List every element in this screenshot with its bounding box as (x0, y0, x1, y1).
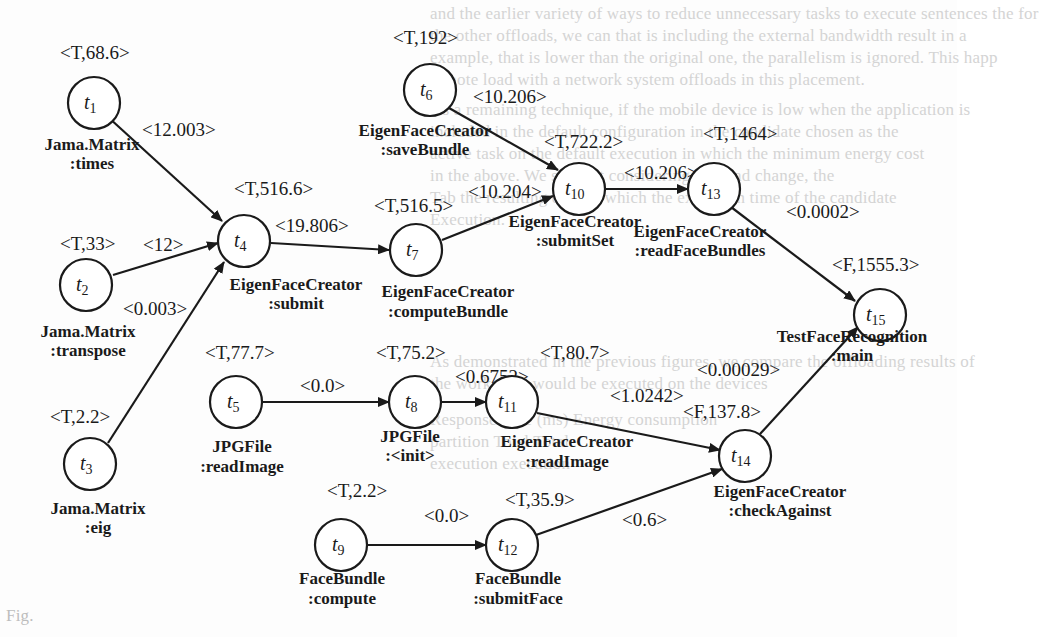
node-attr: <T,192> (393, 27, 458, 48)
node-attr: <F,137.8> (683, 401, 761, 422)
node-method: :submitFace (473, 589, 563, 608)
node-class: EigenFaceCreator (230, 275, 363, 294)
node-attr: <T,722.2> (544, 131, 623, 152)
node-attr: <T,516.6> (234, 178, 313, 199)
edge-weight-t5-t8: <0.0> (300, 375, 345, 396)
node-attr: <T,75.2> (376, 342, 446, 363)
edge-t4-t7 (271, 243, 389, 250)
node-class: JPGFile (212, 437, 272, 456)
node-t6: <T,192> t6 EigenFaceCreator :saveBundle (359, 27, 492, 159)
edge-weight-t2-t4: <12> (143, 234, 183, 255)
node-t4: <T,516.6> t4 EigenFaceCreator :submit (218, 178, 363, 313)
node-class: Jama.Matrix (41, 322, 136, 341)
node-class: JPGFile (380, 427, 440, 446)
node-t2: <T,33> t2 Jama.Matrix :transpose (41, 233, 136, 360)
edge-weight-t11-t14: <1.0242> (610, 385, 684, 406)
node-method: :saveBundle (381, 140, 470, 159)
edge-weight-t9-t12: <0.0> (424, 505, 469, 526)
node-t11: <T,80.7> t11 EigenFaceCreator :readImage (486, 342, 634, 471)
node-method: :<init> (385, 446, 435, 465)
node-method: :checkAgainst (729, 501, 832, 520)
node-t1: <T,68.6> t1 Jama.Matrix :times (45, 42, 140, 173)
node-t3: <T,2.2> t3 Jama.Matrix :eig (50, 406, 146, 537)
node-method: :readImage (525, 452, 609, 471)
edge-weight-t4-t7: <19.806> (275, 215, 349, 236)
node-t8: <T,75.2> t8 JPGFile :<init> (376, 342, 446, 465)
node-class: EigenFaceCreator (501, 432, 634, 451)
node-attr: <T,33> (60, 233, 115, 254)
edge-weight-t13-t15: <0.0002> (786, 201, 860, 222)
node-method: :readImage (200, 457, 284, 476)
node-attr: <F,1555.3> (832, 254, 919, 275)
node-class: Jama.Matrix (51, 499, 146, 518)
node-class: FaceBundle (299, 569, 385, 588)
node-class: EigenFaceCreator (634, 222, 767, 241)
node-method: :readFaceBundles (635, 241, 766, 260)
node-method: :transpose (50, 341, 126, 360)
node-class: EigenFaceCreator (509, 212, 642, 231)
node-attr: <T,35.9> (505, 489, 575, 510)
node-t15: <F,1555.3> t15 TestFaceRecognition :main (777, 254, 928, 365)
node-class: EigenFaceCreator (359, 121, 492, 140)
node-class: TestFaceRecognition (777, 327, 928, 346)
node-method: :eig (85, 518, 112, 537)
edge-weight-t12-t14: <0.6> (622, 509, 667, 530)
edge-weight-t3-t4: <0.003> (123, 298, 187, 319)
node-attr: <T,77.7> (205, 342, 275, 363)
node-class: EigenFaceCreator (382, 282, 515, 301)
node-method: :main (831, 346, 874, 365)
node-attr: <T,516.5> (374, 195, 453, 216)
node-method: :times (70, 154, 115, 173)
node-t7: <T,516.5> t7 EigenFaceCreator :computeBu… (374, 195, 515, 321)
node-method: :submit (268, 294, 324, 313)
edge-weight-t7-t10: <10.204> (468, 181, 542, 202)
node-method: :submitSet (536, 231, 615, 250)
node-attr: <T,1464> (703, 123, 777, 144)
node-class: EigenFaceCreator (714, 482, 847, 501)
node-class: FaceBundle (475, 569, 561, 588)
edge-weight-t14-t15: <0.00029> (697, 359, 780, 380)
node-t5: <T,77.7> t5 JPGFile :readImage (200, 342, 284, 476)
node-attr: <T,2.2> (327, 480, 387, 501)
node-method: :computeBundle (388, 302, 508, 321)
node-t14: <F,137.8> t14 EigenFaceCreator :checkAga… (683, 401, 847, 520)
node-t12: <T,35.9> t12 FaceBundle :submitFace (473, 489, 575, 608)
node-class: Jama.Matrix (45, 135, 140, 154)
node-attr: <T,80.7> (540, 342, 610, 363)
node-t13: <T,1464> t13 EigenFaceCreator :readFaceB… (634, 123, 778, 260)
edge-weight-t1-t4: <12.003> (142, 119, 216, 140)
node-attr: <T,2.2> (50, 406, 110, 427)
edge-weight-t6-t10: <10.206> (473, 86, 547, 107)
node-attr: <T,68.6> (60, 42, 130, 63)
edge-weight-t10-t13: <10.206> (624, 162, 698, 183)
node-method: :compute (308, 589, 376, 608)
